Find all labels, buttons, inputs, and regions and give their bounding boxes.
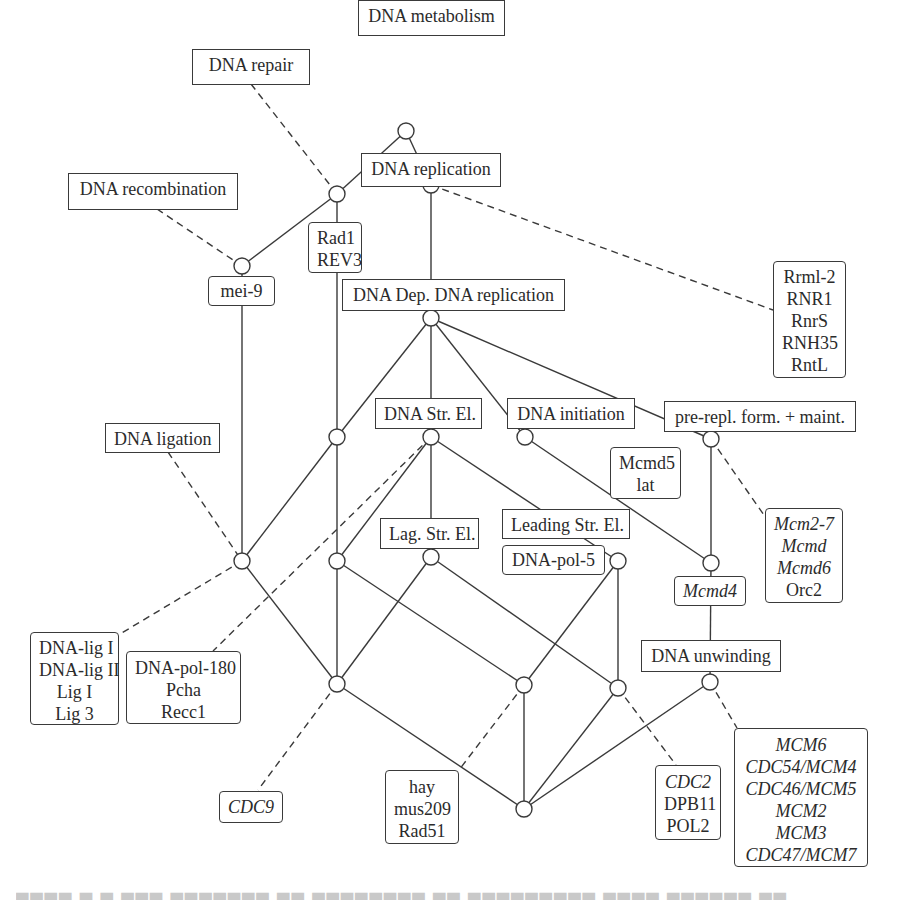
obj-dna-pol-180-group: DNA-pol-180 Pcha Recc1 [126,651,241,724]
obj-line: Rad1 [317,227,353,249]
attr-label: DNA metabolism [368,6,495,26]
obj-line: Lig I [39,681,110,703]
obj-line: MCM6 [743,734,859,756]
obj-line: mei-9 [217,280,266,302]
obj-line: Rrml-2 [782,266,837,288]
obj-line: DNA-pol-180 [135,657,232,679]
attr-label: DNA recombination [80,179,226,199]
obj-mcm2-7-group: Mcm2-7 Mcmd Mcmd6 Orc2 [765,508,843,603]
attr-label: Lag. Str. El. [389,524,476,544]
obj-line: DPB11 [664,793,712,815]
obj-line: CDC54/MCM4 [743,756,859,778]
attr-dna-ligation: DNA ligation [105,423,220,453]
attr-label: DNA Str. El. [384,404,476,424]
obj-line: RNH35 [782,332,837,354]
attr-pre-repl-form-maint: pre-repl. form. + maint. [664,401,856,432]
obj-line: RNR1 [782,288,837,310]
obj-line: Orc2 [774,579,834,601]
obj-line: Mcmd [774,535,834,557]
obj-dna-lig-group: DNA-lig I DNA-lig II Lig I Lig 3 [30,632,119,725]
obj-line: Recc1 [135,701,232,723]
obj-line: Mcm2-7 [774,513,834,535]
obj-line: CDC9 [228,796,274,818]
attr-dna-str-el: DNA Str. El. [375,398,482,429]
obj-line: lat [619,474,672,496]
concept-lattice-diagram: DNA metabolism DNA repair DNA replicatio… [0,0,901,900]
obj-line: POL2 [664,815,712,837]
attr-label: Leading Str. El. [511,515,624,535]
attr-leading-str-el: Leading Str. El. [502,509,630,539]
attr-label: DNA Dep. DNA replication [353,285,554,305]
attr-lag-str-el: Lag. Str. El. [380,518,479,549]
attr-dna-initiation: DNA initiation [507,398,635,429]
obj-rad1-rev3: Rad1 REV3 [308,222,362,273]
obj-line: CDC46/MCM5 [743,778,859,800]
obj-line: CDC47/MCM7 [743,844,859,866]
attr-label: pre-repl. form. + maint. [675,407,845,427]
attr-dna-dep-replication: DNA Dep. DNA replication [342,279,565,311]
obj-line: REV3 [317,249,353,271]
attr-label: DNA ligation [114,429,212,449]
attr-dna-replication: DNA replication [361,153,501,187]
attr-label: DNA initiation [517,404,625,424]
obj-mei-9: mei-9 [208,276,275,306]
attr-dna-recombination: DNA recombination [68,173,238,210]
obj-line: DNA-lig II [39,659,110,681]
obj-hay-group: hay mus209 Rad51 [385,770,459,844]
obj-line: MCM3 [743,822,859,844]
obj-rrml-group: Rrml-2 RNR1 RnrS RNH35 RntL [773,261,846,378]
obj-cdc9: CDC9 [219,791,283,823]
obj-mcmd4: Mcmd4 [674,576,746,606]
obj-mcmd5-lat: Mcmd5 lat [610,447,681,499]
obj-line: DNA-pol-5 [511,549,596,571]
attr-label: DNA repair [209,55,293,75]
obj-line: MCM2 [743,800,859,822]
attr-label: DNA replication [371,159,490,179]
obj-line: Lig 3 [39,703,110,725]
obj-line: RntL [782,354,837,376]
obj-line: RnrS [782,310,837,332]
obj-line: DNA-lig I [39,637,110,659]
attr-label: DNA unwinding [651,646,771,666]
obj-line: hay [394,776,450,798]
obj-line: Mcmd4 [683,580,737,602]
obj-cdc2-group: CDC2 DPB11 POL2 [655,765,721,840]
obj-line: Pcha [135,679,232,701]
obj-line: Rad51 [394,820,450,842]
attr-dna-repair: DNA repair [192,49,310,85]
obj-dna-pol-5: DNA-pol-5 [502,545,605,575]
obj-line: mus209 [394,798,450,820]
obj-line: CDC2 [664,771,712,793]
obj-mcm6-group: MCM6 CDC54/MCM4 CDC46/MCM5 MCM2 MCM3 CDC… [734,728,868,867]
attr-dna-metabolism: DNA metabolism [358,0,505,36]
obj-line: Mcmd6 [774,557,834,579]
attr-dna-unwinding: DNA unwinding [641,640,781,672]
obj-line: Mcmd5 [619,452,672,474]
figure-caption-clipped: ▆▆▆▆ ▆ ▆ ▆▆▆ ▆▆▆▆▆▆▆ ▆▆ ▆▆▆▆▆▆▆▆ ▆▆ ▆▆▆▆… [16,888,886,900]
